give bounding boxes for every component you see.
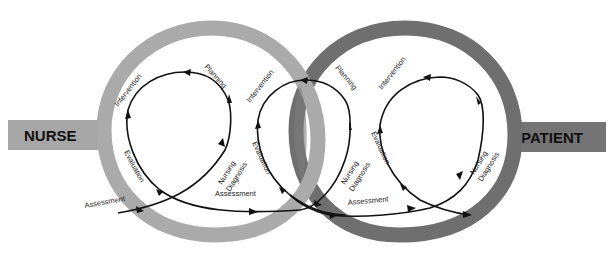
nurse-ring — [104, 28, 318, 235]
patient-label: PATIENT — [521, 129, 583, 146]
loop-2-intervention-label: Intervention — [244, 68, 275, 104]
loop-3-assessment-label: Assessment — [347, 194, 389, 207]
nurse-label: NURSE — [24, 127, 77, 144]
loop-3-intervention-label: Intervention — [376, 55, 407, 91]
loop-3-evaluation-label: Evaluation — [369, 130, 392, 166]
loop-2-planning-label: Planning — [333, 64, 359, 92]
patient-bar: PATIENT — [510, 122, 606, 152]
loop-2-evaluation-label: Evaluation — [250, 140, 273, 176]
loop-1-to-2-assessment-label: Assessment — [215, 189, 257, 198]
nursing-process-diagram: NURSE PATIENT Assessment Nursing Diagnos… — [0, 0, 612, 257]
nurse-bar: NURSE — [8, 120, 108, 150]
loop-1-assessment-label: Assessment — [84, 194, 127, 210]
